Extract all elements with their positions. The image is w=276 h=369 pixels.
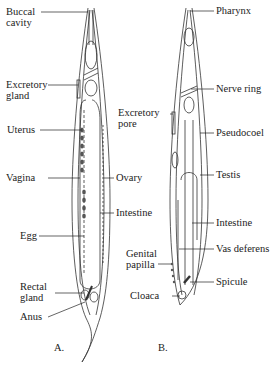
label-spicule: Spicule xyxy=(216,276,248,287)
label-uterus: Uterus xyxy=(7,124,35,135)
label-line: papilla xyxy=(126,259,157,270)
caption-a: A. xyxy=(54,342,64,353)
label-line: Intestine xyxy=(116,207,152,218)
label-anus: Anus xyxy=(20,311,42,322)
label-pseudocoel: Pseudocoel xyxy=(216,127,264,138)
leader-lines-b xyxy=(158,11,214,296)
label-line: Buccal xyxy=(6,6,35,17)
label-line: Intestine xyxy=(216,217,252,228)
label-line: Vagina xyxy=(6,172,35,183)
label-line: Pharynx xyxy=(216,5,251,16)
female-nematode-drawing xyxy=(72,8,110,362)
label-line: Pseudocoel xyxy=(216,127,264,138)
label-line: Rectal xyxy=(20,281,47,292)
label-line: Egg xyxy=(20,230,37,241)
male-nematode-drawing xyxy=(170,8,208,305)
label-rectal-gland: Rectal gland xyxy=(20,281,47,303)
label-line: cavity xyxy=(6,17,35,28)
caption-b: B. xyxy=(158,342,168,353)
label-vas-deferens: Vas deferens xyxy=(216,243,269,254)
label-line: Spicule xyxy=(216,276,248,287)
label-line: gland xyxy=(6,90,47,101)
label-excretory-pore: Excretory pore xyxy=(118,107,159,129)
label-intestine-b: Intestine xyxy=(216,217,252,228)
label-line: Testis xyxy=(216,169,240,180)
label-line: gland xyxy=(20,292,47,303)
label-line: Ovary xyxy=(116,172,142,183)
label-intestine-a: Intestine xyxy=(116,207,152,218)
label-nerve-ring: Nerve ring xyxy=(216,83,261,94)
label-buccal-cavity: Buccal cavity xyxy=(6,6,35,28)
label-testis: Testis xyxy=(216,169,240,180)
label-line: Genital xyxy=(126,248,157,259)
label-line: Uterus xyxy=(7,124,35,135)
label-line: Cloaca xyxy=(130,290,159,301)
label-genital-papilla: Genital papilla xyxy=(126,248,157,270)
label-line: Excretory xyxy=(6,79,47,90)
label-line: Anus xyxy=(20,311,42,322)
label-egg: Egg xyxy=(20,230,37,241)
label-vagina: Vagina xyxy=(6,172,35,183)
label-pharynx: Pharynx xyxy=(216,5,251,16)
label-line: Excretory xyxy=(118,107,159,118)
label-ovary: Ovary xyxy=(116,172,142,183)
leader-lines-a xyxy=(39,12,114,317)
label-line: Vas deferens xyxy=(216,243,269,254)
label-cloaca: Cloaca xyxy=(130,290,159,301)
label-line: pore xyxy=(118,118,159,129)
label-line: Nerve ring xyxy=(216,83,261,94)
label-excretory-gland: Excretory gland xyxy=(6,79,47,101)
